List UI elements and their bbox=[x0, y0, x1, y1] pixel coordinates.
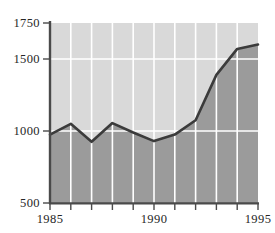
y-axis-tick-1500: 1500 bbox=[0, 53, 40, 65]
y-axis-tick-500: 500 bbox=[0, 197, 40, 209]
line-area-chart: 1750 1500 1000 500 1985 1990 1995 bbox=[0, 0, 275, 233]
x-axis-tick-1990: 1990 bbox=[134, 213, 174, 225]
x-axis-tick-1985: 1985 bbox=[30, 213, 70, 225]
y-axis-tick-1750: 1750 bbox=[0, 17, 40, 29]
y-axis-tick-1000: 1000 bbox=[0, 125, 40, 137]
chart-canvas bbox=[0, 0, 275, 233]
x-axis-tick-1995: 1995 bbox=[238, 213, 275, 225]
